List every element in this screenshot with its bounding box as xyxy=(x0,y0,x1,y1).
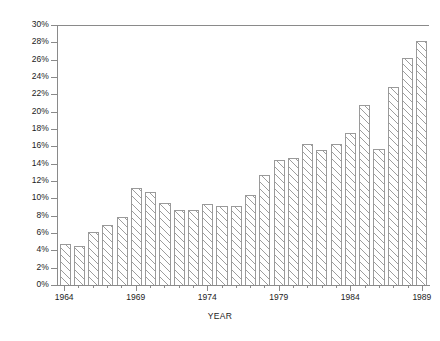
x-axis-tick xyxy=(236,285,237,288)
bar-slot xyxy=(72,26,86,285)
bar[interactable] xyxy=(359,105,370,285)
bar-slot xyxy=(172,26,186,285)
bar[interactable] xyxy=(345,133,356,285)
bar-chart: 0%2%4%6%8%10%12%14%16%18%20%22%24%26%28%… xyxy=(0,0,440,341)
bar[interactable] xyxy=(60,244,71,285)
x-axis-tick xyxy=(393,285,394,288)
y-axis-label-text: 8% xyxy=(3,211,49,219)
bar[interactable] xyxy=(88,232,99,285)
x-axis-tick xyxy=(78,285,79,288)
x-axis-tick xyxy=(293,285,294,288)
y-axis-label: 0% xyxy=(0,280,49,290)
bar[interactable] xyxy=(131,188,142,285)
bar[interactable] xyxy=(416,41,427,285)
bar-slot xyxy=(358,26,372,285)
bar[interactable] xyxy=(402,58,413,285)
bar[interactable] xyxy=(145,192,156,285)
bar[interactable] xyxy=(202,204,213,285)
x-axis-tick xyxy=(250,285,251,288)
x-axis-tick xyxy=(150,285,151,288)
bar[interactable] xyxy=(216,206,227,285)
y-axis-label-text: 12% xyxy=(3,176,49,184)
y-axis-label: 2% xyxy=(0,263,49,273)
bar[interactable] xyxy=(288,158,299,285)
bar-slot xyxy=(301,26,315,285)
y-axis-label: 10% xyxy=(0,193,49,203)
x-axis-line xyxy=(57,285,430,286)
x-axis-tick xyxy=(193,285,194,288)
x-axis-label: 1979 xyxy=(259,292,299,302)
x-axis-tick xyxy=(408,285,409,288)
plot-area xyxy=(57,25,429,285)
bar[interactable] xyxy=(388,87,399,285)
bar[interactable] xyxy=(117,217,128,285)
x-axis-tick xyxy=(307,285,308,288)
y-axis-label: 18% xyxy=(0,124,49,134)
bar[interactable] xyxy=(259,175,270,286)
x-axis-tick xyxy=(179,285,180,288)
bar-slot xyxy=(215,26,229,285)
x-axis-tick xyxy=(336,285,337,288)
bar-slot xyxy=(158,26,172,285)
x-axis-label: 1989 xyxy=(402,292,440,302)
y-axis-label: 6% xyxy=(0,228,49,238)
y-axis-label: 24% xyxy=(0,72,49,82)
y-axis-label: 20% xyxy=(0,107,49,117)
y-axis-label-text: 24% xyxy=(3,72,49,80)
x-axis-label: 1984 xyxy=(330,292,370,302)
x-axis-tick xyxy=(136,285,137,291)
y-axis-label-text: 20% xyxy=(3,107,49,115)
x-axis-tick xyxy=(422,285,423,291)
x-axis-tick xyxy=(107,285,108,288)
bar-slot xyxy=(229,26,243,285)
bar-slot xyxy=(201,26,215,285)
bar[interactable] xyxy=(188,210,199,285)
bar-slot xyxy=(186,26,200,285)
y-axis-label-text: 14% xyxy=(3,159,49,167)
bar[interactable] xyxy=(159,203,170,285)
y-axis-label: 16% xyxy=(0,141,49,151)
bar-slot xyxy=(243,26,257,285)
bar[interactable] xyxy=(373,149,384,285)
bar[interactable] xyxy=(102,225,113,285)
y-axis-label-text: 16% xyxy=(3,141,49,149)
y-axis-label-text: 30% xyxy=(3,20,49,28)
bar-slot xyxy=(87,26,101,285)
y-axis-label-text: 26% xyxy=(3,55,49,63)
x-axis-label: 1974 xyxy=(187,292,227,302)
y-axis-label: 22% xyxy=(0,89,49,99)
x-axis-tick xyxy=(264,285,265,288)
bar-slot xyxy=(329,26,343,285)
bar-slot xyxy=(129,26,143,285)
x-axis-label: 1964 xyxy=(44,292,84,302)
y-axis-label-text: 18% xyxy=(3,124,49,132)
x-axis-tick xyxy=(279,285,280,291)
y-axis-label: 8% xyxy=(0,211,49,221)
bar[interactable] xyxy=(245,195,256,285)
bar[interactable] xyxy=(302,144,313,285)
bar[interactable] xyxy=(331,144,342,285)
bar[interactable] xyxy=(74,246,85,285)
bar-slot xyxy=(386,26,400,285)
x-axis-tick xyxy=(222,285,223,288)
bar-slot xyxy=(315,26,329,285)
bars-container xyxy=(58,26,429,285)
y-axis-label-text: 2% xyxy=(3,263,49,271)
y-axis-label-text: 0% xyxy=(3,280,49,288)
x-axis-tick xyxy=(207,285,208,291)
y-axis-label: 14% xyxy=(0,159,49,169)
bar-slot xyxy=(400,26,414,285)
y-axis-label: 26% xyxy=(0,55,49,65)
y-axis-label: 4% xyxy=(0,245,49,255)
bar-slot xyxy=(272,26,286,285)
bar-slot xyxy=(286,26,300,285)
y-axis-label: 30% xyxy=(0,20,49,30)
bar[interactable] xyxy=(174,210,185,285)
y-axis-label: 28% xyxy=(0,37,49,47)
bar[interactable] xyxy=(274,160,285,285)
bar-slot xyxy=(258,26,272,285)
bar[interactable] xyxy=(316,150,327,285)
bar[interactable] xyxy=(231,206,242,285)
x-axis-tick xyxy=(350,285,351,291)
bar-slot xyxy=(101,26,115,285)
